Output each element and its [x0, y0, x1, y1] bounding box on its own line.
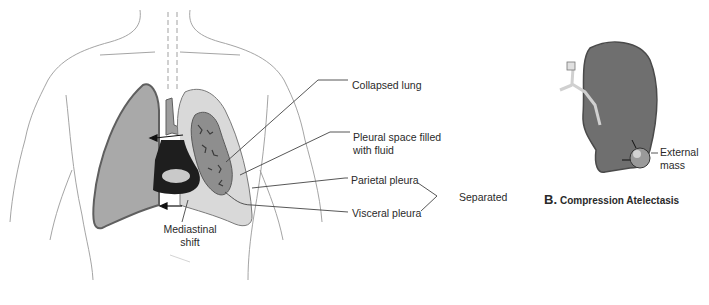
healthy-lung [93, 84, 159, 228]
label-collapsed-lung: Collapsed lung [352, 79, 421, 92]
label-visceral-pleura: Visceral pleura [352, 207, 421, 220]
panel-b-caption: B.Compression Atelectasis [544, 192, 679, 207]
label-external: External [660, 146, 699, 159]
label-pleural-space-line2: with fluid [353, 144, 394, 157]
panel-b-title: Compression Atelectasis [560, 195, 679, 206]
label-mediastinal: Mediastinal [155, 223, 225, 236]
label-mass: mass [660, 159, 685, 172]
label-shift: shift [155, 236, 225, 249]
label-parietal-pleura: Parietal pleura [351, 174, 419, 187]
heart-highlight [162, 169, 190, 183]
panel-b-letter: B. [544, 192, 557, 207]
label-pleural-space-line1: Pleural space filled [353, 131, 441, 144]
compression-lung [560, 42, 658, 172]
label-separated: Separated [459, 191, 507, 204]
trachea-dashed [168, 12, 177, 92]
